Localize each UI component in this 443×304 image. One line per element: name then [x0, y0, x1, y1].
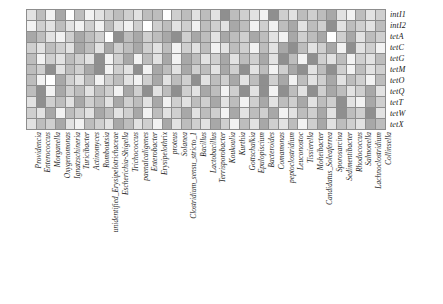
heatmap-cell	[346, 108, 356, 119]
heatmap-cell	[375, 86, 385, 97]
heatmap-cell	[278, 53, 288, 64]
heatmap-cell	[36, 20, 46, 31]
heatmap-cell	[143, 108, 153, 119]
heatmap-cell	[75, 42, 85, 53]
heatmap-cell	[133, 53, 143, 64]
heatmap-cell	[327, 86, 337, 97]
heatmap-cell	[298, 53, 308, 64]
heatmap-cell	[182, 86, 192, 97]
heatmap-cell	[123, 42, 133, 53]
heatmap-cell	[230, 10, 240, 21]
heatmap-cell	[182, 20, 192, 31]
column-label: Solanea	[180, 132, 189, 156]
heatmap-cell	[201, 108, 211, 119]
heatmap-cell	[259, 53, 269, 64]
column-label: Ignatzschineria	[73, 132, 82, 179]
heatmap-cell	[375, 108, 385, 119]
heatmap-row	[27, 10, 386, 21]
heatmap-cell	[182, 10, 192, 21]
heatmap-cell	[143, 42, 153, 53]
heatmap-cell	[162, 64, 172, 75]
heatmap-cell	[133, 119, 143, 130]
heatmap-cell	[230, 64, 240, 75]
heatmap-cell	[249, 86, 259, 97]
heatmap-cell	[337, 31, 347, 42]
row-label-inti2: intI2	[390, 20, 443, 31]
heatmap-cell	[356, 42, 366, 53]
heatmap-cell	[191, 108, 201, 119]
heatmap-body	[27, 10, 386, 130]
heatmap-cell	[317, 20, 327, 31]
column-label: Gottschalkia	[248, 132, 257, 170]
heatmap-cell	[123, 31, 133, 42]
heatmap-cell	[75, 20, 85, 31]
heatmap-cell	[36, 75, 46, 86]
heatmap-cell	[65, 20, 75, 31]
heatmap-cell	[240, 119, 250, 130]
column-label: Trichococcus	[131, 132, 140, 172]
heatmap-cell	[152, 31, 162, 42]
heatmap-cell	[259, 97, 269, 108]
heatmap-cell	[211, 75, 221, 86]
heatmap-cell	[307, 20, 317, 31]
heatmap-cell	[375, 31, 385, 42]
heatmap-cell	[366, 31, 376, 42]
heatmap-cell	[133, 64, 143, 75]
heatmap-cell	[123, 64, 133, 75]
heatmap-cell	[85, 31, 95, 42]
column-label: Actinomyces	[92, 132, 101, 170]
column-label: Leuconostoc	[296, 132, 305, 170]
heatmap-cell	[104, 20, 114, 31]
heatmap-cell	[366, 97, 376, 108]
heatmap-cell	[172, 97, 182, 108]
heatmap-cell	[143, 31, 153, 42]
row-label-teta: tetA	[390, 31, 443, 42]
heatmap-cell	[152, 10, 162, 21]
heatmap-cell	[278, 97, 288, 108]
heatmap-cell	[298, 119, 308, 130]
heatmap-cell	[104, 119, 114, 130]
heatmap-cell	[191, 75, 201, 86]
heatmap-cell	[75, 119, 85, 130]
heatmap-cell	[162, 10, 172, 21]
heatmap-cell	[337, 119, 347, 130]
heatmap-cell	[152, 86, 162, 97]
heatmap-cell	[307, 86, 317, 97]
heatmap-cell	[249, 119, 259, 130]
heatmap-cell	[366, 108, 376, 119]
heatmap-row	[27, 97, 386, 108]
heatmap-cell	[366, 10, 376, 21]
heatmap-cell	[114, 119, 124, 130]
heatmap-cell	[346, 10, 356, 21]
heatmap-cell	[46, 119, 56, 130]
heatmap-cell	[220, 31, 230, 42]
heatmap-cell	[191, 119, 201, 130]
heatmap-cell	[375, 42, 385, 53]
heatmap-cell	[220, 97, 230, 108]
heatmap-cell	[375, 64, 385, 75]
heatmap-cell	[278, 10, 288, 21]
heatmap-cell	[104, 75, 114, 86]
heatmap-cell	[230, 53, 240, 64]
heatmap-cell	[65, 86, 75, 97]
heatmap-cell	[356, 20, 366, 31]
heatmap-cell	[278, 108, 288, 119]
heatmap-cell	[346, 53, 356, 64]
heatmap-cell	[337, 64, 347, 75]
heatmap-cell	[133, 75, 143, 86]
heatmap-cell	[65, 108, 75, 119]
heatmap-cell	[269, 31, 279, 42]
heatmap-cell	[317, 97, 327, 108]
heatmap-cell	[356, 53, 366, 64]
heatmap-cell	[201, 53, 211, 64]
heatmap-cell	[211, 10, 221, 21]
heatmap-cell	[94, 119, 104, 130]
heatmap-cell	[56, 64, 66, 75]
heatmap-cell	[104, 42, 114, 53]
heatmap-table	[26, 9, 386, 130]
heatmap-cell	[27, 86, 37, 97]
heatmap-cell	[307, 108, 317, 119]
heatmap-cell	[114, 97, 124, 108]
heatmap-cell	[317, 108, 327, 119]
heatmap-cell	[123, 97, 133, 108]
